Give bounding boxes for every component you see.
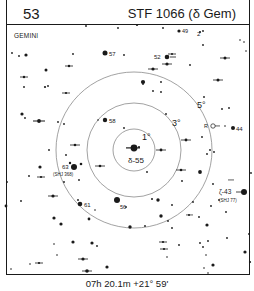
coordinates-caption: 07h 20.1m +21° 59' bbox=[0, 278, 254, 289]
label-61: 61 bbox=[84, 202, 91, 208]
label-zeta-43: ζ-43 bbox=[219, 188, 232, 196]
star-57 bbox=[103, 51, 108, 56]
star-61 bbox=[78, 202, 83, 207]
ring-3-label: 3° bbox=[172, 118, 181, 128]
stars bbox=[5, 24, 252, 274]
label-56: 56 bbox=[120, 204, 126, 210]
label-52: 52 bbox=[154, 54, 161, 60]
star-56 bbox=[114, 197, 120, 203]
label-58: 58 bbox=[109, 118, 116, 124]
label-43-sub: (SHJ 77) bbox=[219, 198, 237, 203]
ring-5-label: 5° bbox=[197, 100, 206, 110]
star-63 bbox=[71, 164, 77, 170]
label-44: 44 bbox=[236, 126, 243, 132]
label-49: 49 bbox=[182, 28, 188, 34]
label-r-marker: R bbox=[204, 123, 208, 129]
star-52 bbox=[165, 55, 170, 60]
star-map: 1° 3° 5° bbox=[0, 0, 254, 291]
star-zeta-43 bbox=[241, 189, 247, 195]
label-delta-55: δ-55 bbox=[128, 156, 145, 165]
label-63-sub: (SHJ 368) bbox=[53, 172, 74, 177]
star-44 bbox=[231, 126, 235, 130]
star-49 bbox=[177, 29, 180, 32]
ring-1-label: 1° bbox=[142, 132, 151, 142]
star-58 bbox=[103, 118, 107, 122]
label-57: 57 bbox=[109, 51, 116, 57]
label-63: 63 bbox=[62, 164, 69, 170]
